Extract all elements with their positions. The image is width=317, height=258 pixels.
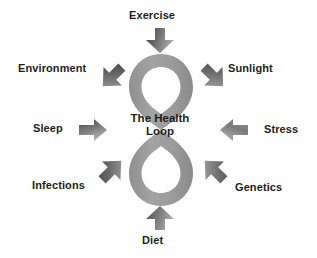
arrow-right-icon <box>78 118 108 142</box>
center-title: The Health Loop <box>110 112 210 138</box>
arrow-up-left-icon <box>199 155 229 185</box>
arrow-down-right-icon <box>97 62 127 92</box>
arrow-up-icon <box>145 205 175 231</box>
factor-label-stress: Stress <box>264 123 298 135</box>
factor-label-genetics: Genetics <box>235 181 282 193</box>
arrow-down-left-icon <box>199 62 229 92</box>
factor-label-environment: Environment <box>18 62 86 74</box>
center-title-line2: Loop <box>110 125 210 138</box>
factor-label-infections: Infections <box>32 179 85 191</box>
factor-label-diet: Diet <box>142 234 163 246</box>
factor-label-sleep: Sleep <box>33 122 63 134</box>
arrow-up-right-icon <box>97 155 127 185</box>
arrow-left-icon <box>219 118 249 142</box>
center-title-line1: The Health <box>110 112 210 125</box>
health-loop-diagram: The Health Loop <box>0 0 317 258</box>
factor-label-exercise: Exercise <box>129 9 175 21</box>
factor-label-sunlight: Sunlight <box>228 62 273 74</box>
arrow-down-icon <box>145 28 175 54</box>
